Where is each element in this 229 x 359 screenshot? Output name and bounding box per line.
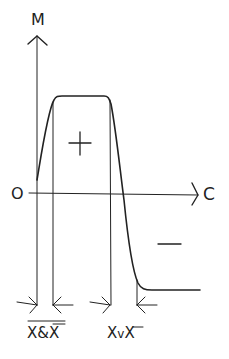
label-x-or-not-x: XvX (107, 326, 135, 341)
x-axis-label: C (203, 186, 215, 203)
label-x-and-not-x: X&X (27, 326, 59, 341)
origin-label: O (11, 186, 24, 202)
arrow-left-icon (137, 297, 157, 313)
plus-sign (69, 132, 91, 155)
arrow-left-icon (53, 297, 73, 313)
arrow-right-icon (17, 297, 37, 313)
y-axis-label: M (31, 12, 45, 28)
arrow-right-icon (90, 297, 110, 313)
marker-line (110, 100, 111, 305)
diagram-canvas (0, 0, 229, 359)
x-axis-arrow-icon (192, 183, 198, 205)
x-axis (29, 193, 198, 195)
